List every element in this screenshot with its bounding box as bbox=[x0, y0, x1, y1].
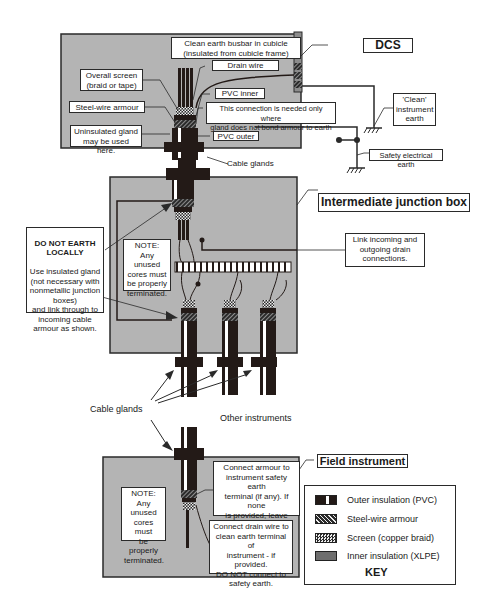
key-label: Screen (copper braid) bbox=[347, 533, 434, 543]
clean-earth-label: 'Clean' instrument earth bbox=[393, 93, 436, 126]
connect-drain-label: Connect drain wire to clean earth termin… bbox=[209, 520, 293, 574]
field-title-leader bbox=[299, 460, 314, 470]
connection-note-label: This connection is needed only where gla… bbox=[206, 102, 336, 124]
armour-swatch-icon bbox=[315, 514, 337, 524]
connect-armour-label: Connect armour to instrument safety eart… bbox=[213, 461, 300, 516]
field-instrument-title: Field instrument bbox=[317, 454, 408, 468]
key-label: Outer insulation (PVC) bbox=[347, 495, 437, 505]
key-label: Steel-wire armour bbox=[347, 514, 418, 524]
safety-earth-label: Safety electrical earth bbox=[369, 149, 443, 161]
link-drain-label: Link incoming and outgoing drain connect… bbox=[345, 233, 425, 267]
pvc-inner-label: PVC inner bbox=[215, 88, 265, 99]
key-item-outer-pvc: Outer insulation (PVC) bbox=[305, 495, 455, 507]
key-item-inner-xlpe: Inner insulation (XLPE) bbox=[305, 551, 455, 563]
other-instruments-label: Other instruments bbox=[220, 413, 292, 423]
steel-wire-armour-label: Steel-wire armour bbox=[69, 101, 145, 113]
outgoing-cable-1 bbox=[181, 300, 197, 357]
do-not-earth-body: Use insulated gland (not necessary with … bbox=[29, 267, 101, 334]
field-note: NOTE: Any unused cores must be properly … bbox=[121, 487, 166, 541]
outer-pvc-swatch-icon bbox=[315, 495, 337, 505]
junction-note: NOTE: Any unused cores must be properly … bbox=[123, 239, 171, 291]
do-not-earth-heading: DO NOT EARTH LOCALLY bbox=[29, 239, 101, 258]
key-label: Inner insulation (XLPE) bbox=[347, 551, 440, 561]
cable-glands-top-label: Cable glands bbox=[227, 159, 274, 168]
cable-glands-label: Cable glands bbox=[90, 404, 143, 414]
outgoing-cable-2 bbox=[222, 300, 238, 357]
busbar-label: Clean earth busbar in cubicle (insulated… bbox=[171, 37, 301, 59]
drain-wire-label: Drain wire bbox=[212, 60, 279, 71]
key-item-screen: Screen (copper braid) bbox=[305, 533, 455, 545]
do-not-earth-callout: DO NOT EARTH LOCALLY Use insulated gland… bbox=[26, 227, 104, 313]
key-title: KEY bbox=[365, 566, 388, 578]
screen-swatch-icon bbox=[315, 533, 337, 543]
uninsulated-gland-label: Uninsulated gland may be used here. bbox=[70, 125, 142, 147]
inner-xlpe-swatch-icon bbox=[315, 551, 337, 561]
dcs-title: DCS bbox=[363, 38, 413, 53]
pvc-outer-label: PVC outer bbox=[213, 131, 259, 141]
legend-key: Outer insulation (PVC) Steel-wire armour… bbox=[304, 485, 456, 585]
outgoing-cable-3 bbox=[260, 300, 276, 357]
junction-box-title: Intermediate junction box bbox=[318, 193, 470, 212]
key-item-armour: Steel-wire armour bbox=[305, 514, 455, 526]
overall-screen-label: Overall screen (braid or tape) bbox=[80, 69, 143, 91]
